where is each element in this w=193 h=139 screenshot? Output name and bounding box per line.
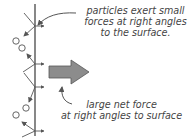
annotation-line: at right angles to surface (50, 110, 193, 121)
particle-paths (22, 13, 35, 137)
particles (13, 38, 29, 118)
annotation-line: to the surface. (78, 27, 193, 38)
particle-1 (13, 38, 19, 44)
small-forces-annotation: particles exert small forces at right an… (78, 5, 193, 38)
net-force-arrow (49, 60, 89, 84)
annotation-line: large net force (50, 99, 193, 110)
net-force-annotation: large net force at right angles to surfa… (50, 99, 193, 121)
annotation-line: forces at right angles (78, 16, 193, 27)
annotation-line: particles exert small (78, 5, 193, 16)
particle-2 (19, 45, 25, 51)
particle-4 (13, 112, 19, 118)
top-pointer-arrow (38, 13, 76, 25)
particle-3 (23, 105, 29, 111)
small-force-arrows (35, 26, 44, 131)
